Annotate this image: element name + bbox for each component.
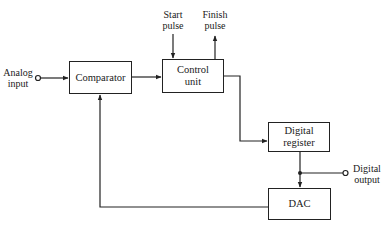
analog-input-label: Analog input: [0, 67, 36, 89]
dac-block: DAC: [268, 188, 331, 220]
wire-control-to-register: [224, 76, 267, 141]
finish-pulse-label: Finish pulse: [196, 9, 234, 31]
wire-dac-to-comparator: [100, 95, 268, 207]
control-unit-label: Control unit: [177, 64, 209, 88]
junction-dot-icon: [298, 171, 302, 175]
control-unit-block: Control unit: [162, 59, 224, 93]
comparator-label: Comparator: [75, 72, 125, 84]
start-pulse-label: Start pulse: [155, 9, 191, 31]
comparator-block: Comparator: [69, 61, 132, 94]
digital-register-label: Digital register: [283, 125, 315, 149]
digital-output-terminal-icon: [343, 171, 348, 176]
analog-input-terminal-icon: [36, 76, 41, 81]
digital-output-label: Digital output: [350, 163, 384, 185]
dac-label: DAC: [288, 198, 310, 210]
digital-register-block: Digital register: [268, 122, 330, 152]
